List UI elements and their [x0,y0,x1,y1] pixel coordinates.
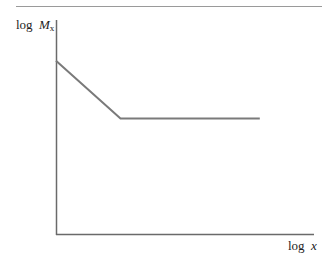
data-curve [56,61,260,119]
x-axis-label: log x [288,238,317,253]
chart: log Mx log x [0,0,336,262]
y-axis-label: log Mx [16,17,55,33]
